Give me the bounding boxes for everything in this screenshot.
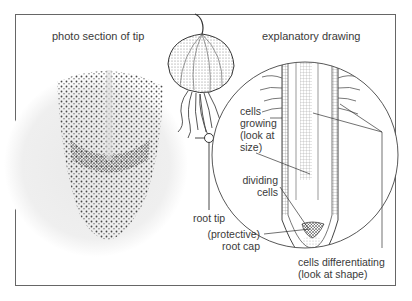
label-line: (look at — [240, 129, 277, 141]
label-line: size) — [240, 141, 277, 153]
label-dividing-cells: dividing cells — [236, 174, 278, 198]
label-line: cells — [236, 186, 278, 198]
label-line: (protective) — [196, 228, 260, 240]
label-cells-growing: cells growing (look at size) — [240, 105, 277, 153]
heading-photo-section: photo section of tip — [52, 30, 144, 42]
root-tip-marker — [205, 134, 214, 143]
label-cells-differentiating: cells differentiating (look at shape) — [298, 256, 385, 280]
label-line: (look at shape) — [298, 268, 385, 280]
label-root-tip: root tip — [193, 212, 225, 224]
label-line: root cap — [196, 240, 260, 252]
vascular-core — [300, 60, 312, 180]
label-line: growing — [240, 117, 277, 129]
photo-section — [4, 70, 188, 257]
label-line: cells differentiating — [298, 256, 385, 268]
heading-explanatory-drawing: explanatory drawing — [262, 30, 360, 42]
label-line: dividing — [236, 174, 278, 186]
label-root-cap: (protective) root cap — [196, 228, 260, 252]
label-line: cells — [240, 105, 277, 117]
